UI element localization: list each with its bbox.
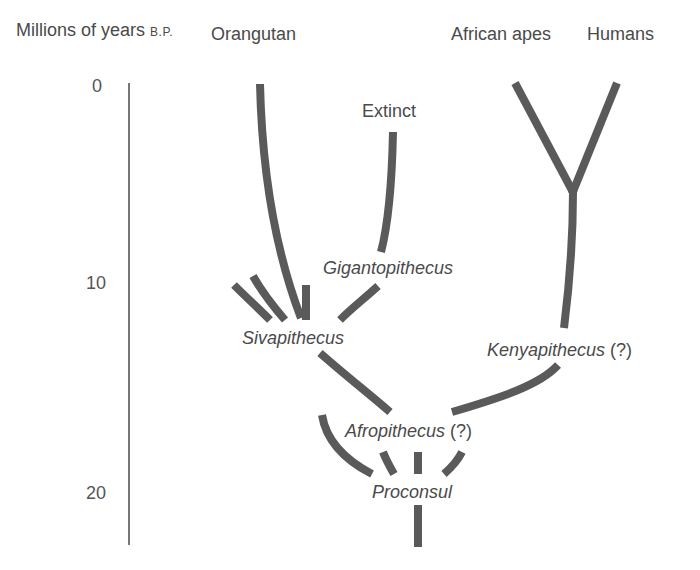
label-afropithecus-name: Afropithecus [345,421,445,441]
label-sivapithecus: Sivapithecus [242,328,344,349]
branch-humans [572,83,617,194]
branch-proconsul-4 [444,452,462,474]
label-afropithecus: Afropithecus (?) [345,421,472,442]
label-extinct: Extinct [362,101,416,122]
branch-orangutan [260,84,301,318]
branch-sivapithecus-afropithecus [320,353,390,412]
branch-african-apes [515,83,574,194]
label-afropithecus-uncertain: (?) [450,421,472,441]
label-african-apes: African apes [451,24,551,45]
label-kenyapithecus-uncertain: (?) [610,340,632,360]
branch-proconsul-2 [383,452,394,474]
label-humans: Humans [587,24,654,45]
label-kenyapithecus-name: Kenyapithecus [487,340,605,360]
phylogeny-tree [0,0,700,570]
branch-gigantopithecus [340,286,378,320]
label-orangutan: Orangutan [211,24,296,45]
branch-kenyapithecus-afropithecus [452,365,558,412]
label-proconsul: Proconsul [372,482,452,503]
branch-extinct [381,132,393,252]
label-gigantopithecus: Gigantopithecus [323,258,453,279]
label-kenyapithecus: Kenyapithecus (?) [487,340,632,361]
branch-hominid-stem [564,192,573,328]
